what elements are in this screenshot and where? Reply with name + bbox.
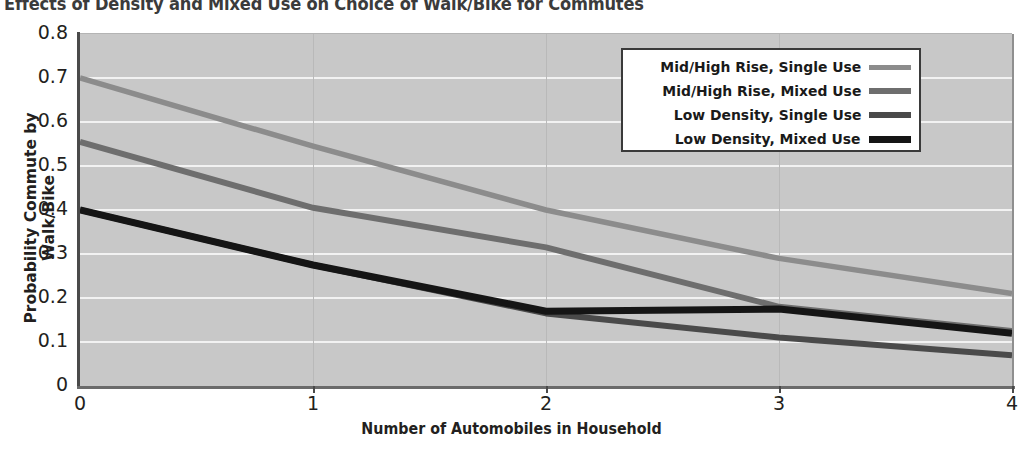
legend-item-label: Mid/High Rise, Mixed Use bbox=[662, 83, 861, 99]
legend-color-swatch bbox=[869, 88, 911, 94]
chart-legend: Mid/High Rise, Single UseMid/High Rise, … bbox=[621, 48, 921, 152]
x-tick-label: 4 bbox=[982, 392, 1023, 414]
y-axis-line bbox=[77, 32, 80, 388]
x-tick-mark bbox=[313, 386, 315, 393]
plot-border-top bbox=[80, 33, 1012, 34]
y-tick-label: 0.8 bbox=[8, 21, 68, 43]
plot-border-right bbox=[1012, 34, 1014, 386]
legend-item-label: Low Density, Single Use bbox=[673, 107, 861, 123]
y-axis-title: Probability Commute by Walk/Bike bbox=[22, 68, 58, 368]
x-tick-mark bbox=[779, 386, 781, 393]
legend-item: Mid/High Rise, Single Use bbox=[631, 55, 911, 79]
x-tick-mark bbox=[546, 386, 548, 393]
legend-color-swatch bbox=[869, 65, 911, 70]
legend-item: Low Density, Single Use bbox=[631, 103, 911, 127]
x-tick-mark bbox=[1012, 386, 1014, 393]
x-axis-title: Number of Automobiles in Household bbox=[26, 420, 998, 438]
x-tick-label: 3 bbox=[749, 392, 809, 414]
legend-item: Mid/High Rise, Mixed Use bbox=[631, 79, 911, 103]
legend-color-swatch bbox=[869, 112, 911, 118]
x-tick-label: 0 bbox=[50, 392, 110, 414]
series-line bbox=[80, 142, 1012, 331]
chart-title: Effects of Density and Mixed Use on Choi… bbox=[4, 0, 644, 14]
legend-item: Low Density, Mixed Use bbox=[631, 127, 911, 151]
legend-item-label: Low Density, Mixed Use bbox=[675, 131, 861, 147]
legend-color-swatch bbox=[869, 136, 911, 143]
legend-item-label: Mid/High Rise, Single Use bbox=[660, 59, 861, 75]
chart-figure: Effects of Density and Mixed Use on Choi… bbox=[0, 0, 1023, 453]
x-tick-label: 2 bbox=[516, 392, 576, 414]
series-line bbox=[80, 210, 1012, 355]
x-tick-label: 1 bbox=[283, 392, 343, 414]
